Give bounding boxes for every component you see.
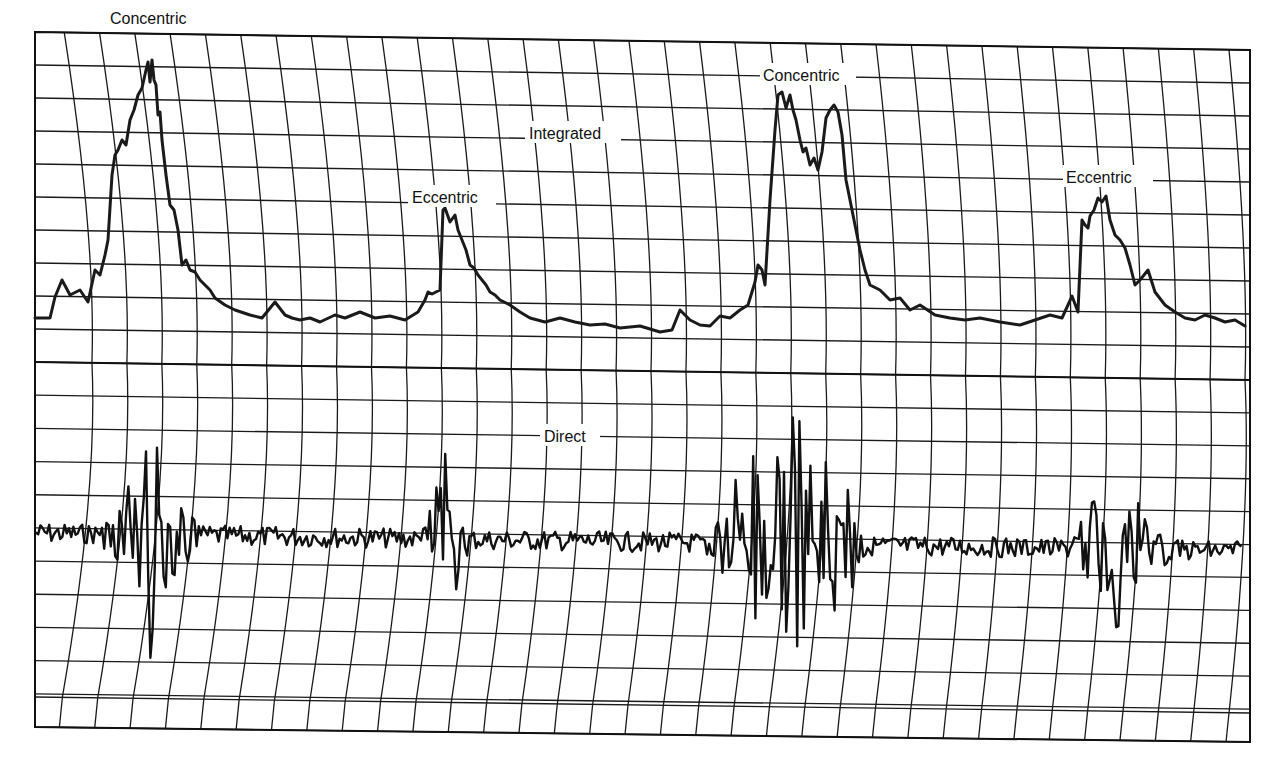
grid-h-line [35,694,1250,709]
grid-v-line [837,708,840,737]
label-direct: Direct [540,424,600,446]
grid-v-line [168,364,197,699]
grid-v-line [1085,711,1088,740]
grid-v-line [1226,713,1229,742]
grid-v-line [484,703,487,733]
grid-v-line [979,710,982,739]
grid-h-line [35,131,1250,149]
label-integrated: Integrated [525,121,621,143]
panel-divider [35,362,1250,380]
grid-v-line [1014,710,1017,739]
grid-v-line [165,699,168,729]
grid-h-line [35,561,1250,577]
label-eccentric-1: Eccentric [408,185,496,207]
grid-v-line [201,699,204,729]
svg-text:Eccentric: Eccentric [1066,169,1132,186]
grid-v-line [1120,712,1123,741]
grid-h-line [35,428,1250,445]
label-concentric-2: Concentric [760,63,856,85]
grid-v-line [236,700,239,730]
grid-v-line [943,709,946,738]
grid-v-line [1049,711,1052,740]
grid-v-line [802,707,805,736]
chart-grid [35,32,1250,742]
grid-h-line [35,329,1250,347]
grid-v-line [59,697,62,727]
chart-labels: Concentric Integrated Eccentric Concentr… [108,6,1153,446]
grid-v-line [448,703,451,733]
grid-h-line [35,495,1250,512]
svg-text:Concentric: Concentric [763,67,839,84]
grid-v-line [130,698,133,728]
grid-v-line [307,701,310,731]
svg-text:Eccentric: Eccentric [412,189,478,206]
grid-v-line [660,705,663,734]
grid-v-line [1191,713,1194,742]
grid-v-line [696,706,699,735]
svg-text:Concentric: Concentric [110,10,186,27]
grid-v-line [590,705,593,735]
grid-v-line [766,707,769,736]
svg-text:Integrated: Integrated [529,125,601,142]
label-concentric-1: Concentric [108,6,200,28]
grid-v-line [271,700,274,730]
grid-v-line [519,704,522,734]
grid-v-line [625,705,628,735]
grid-v-line [1155,712,1158,741]
grid-v-line [95,698,98,728]
svg-text:Direct: Direct [544,428,586,445]
grid-v-line [342,701,345,731]
grid-v-line [378,702,381,732]
grid-h-line [35,462,1250,479]
grid-h-line [35,395,1250,413]
grid-v-line [274,366,302,701]
grid-h-line [35,697,1250,713]
grid-v-line [554,704,557,734]
grid-h-line [35,661,1250,677]
grid-h-line [35,263,1250,281]
grid-v-line [872,708,875,737]
grid-v-line [731,706,734,735]
grid-v-line [413,702,416,732]
chart-traces [35,60,1245,658]
grid-h-line [35,65,1250,83]
grid-h-line [35,98,1250,116]
grid-h-line [35,627,1250,643]
grid-h-line [35,197,1250,215]
grid-v-line [908,709,911,738]
label-eccentric-2: Eccentric [1063,165,1153,187]
emg-chart: Concentric Integrated Eccentric Concentr… [0,0,1277,760]
